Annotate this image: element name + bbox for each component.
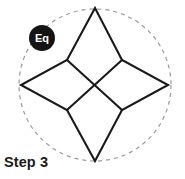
eq-badge-label: Eq [35,32,49,44]
step-caption: Step 3 [4,155,48,170]
figure-container: Eq Step 3 [0,0,185,179]
geometry-figure: Eq [0,0,185,179]
